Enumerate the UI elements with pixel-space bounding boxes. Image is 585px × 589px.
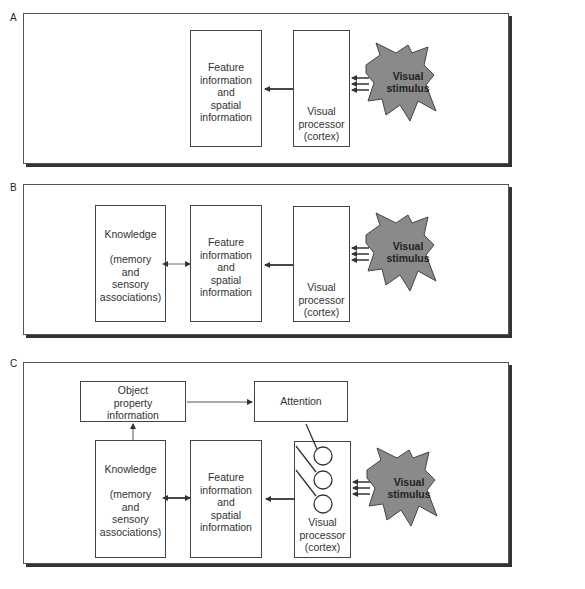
visual-stimulus-label-b: Visual stimulus — [383, 240, 433, 264]
visual-stimulus-label-c: Visual stimulus — [384, 476, 434, 500]
diagram-connectors — [0, 0, 585, 589]
visual-stimulus-label-a: Visual stimulus — [383, 70, 433, 94]
attention-detectors — [296, 424, 332, 513]
panel-a-arrows — [265, 78, 369, 90]
panel-b-arrows — [167, 248, 369, 265]
panel-c-arrows — [133, 402, 370, 499]
